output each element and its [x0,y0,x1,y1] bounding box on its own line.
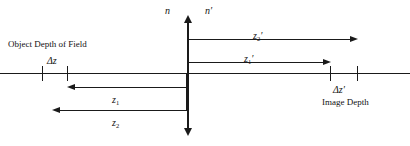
caption-image-depth: Image Depth [322,98,369,107]
label-z1: z1 [112,90,119,107]
tick-image-z1-prime [330,66,331,81]
label-delta-z-prime: Δz′ [333,85,345,95]
surface-arrow-up-icon [184,15,192,23]
measure-z1-arrowhead-icon [67,84,75,90]
label-index-object: n [165,6,170,16]
measure-z2-arrowhead-icon [52,107,60,113]
measure-z2-prime-line [188,39,350,40]
stub-z2-origin [186,73,187,110]
tick-object-z2 [42,66,43,81]
label-z2: z2 [112,113,119,130]
label-z2-prime-mark: ′ [260,30,262,41]
measure-z1-line [75,87,187,88]
optical-depth-of-field-diagram: n n′ Object Depth of Field Δz Δz′ Image … [0,0,410,146]
measure-z1-prime-arrowhead-icon [323,59,331,65]
refracting-surface-axis [187,22,189,128]
label-index-image: n′ [205,6,212,16]
measure-z1-prime-line [188,62,323,63]
label-z1-sub: 1 [116,99,119,106]
label-z2-prime: z2′ [253,26,262,43]
label-z2-sub: 2 [116,122,119,129]
tick-object-z1 [67,66,68,81]
surface-arrow-down-icon [184,128,192,136]
tick-image-z2-prime [357,66,358,81]
measure-z2-prime-arrowhead-icon [350,36,358,42]
label-delta-z: Δz [47,56,57,66]
label-z1-prime-mark: ′ [251,53,253,64]
caption-object-depth-of-field: Object Depth of Field [8,40,87,49]
measure-z2-line [60,110,187,111]
label-z1-prime: z1′ [244,49,253,66]
optical-axis [0,73,410,74]
stub-z1-prime-origin [188,62,189,74]
